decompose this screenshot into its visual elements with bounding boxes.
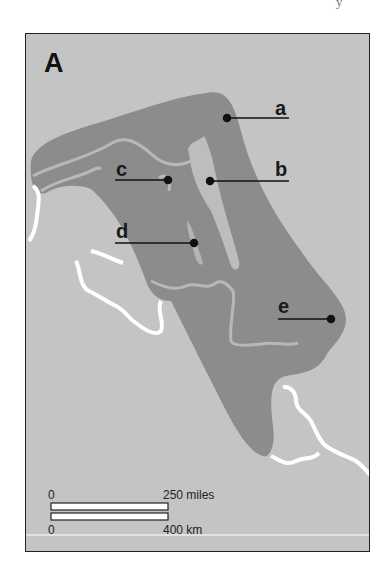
scale-miles-end: 250 miles [163,489,214,501]
scale-km-start: 0 [48,524,55,536]
map-graphic [26,34,370,552]
coastline-east [271,387,370,476]
coastline-west [29,186,39,241]
label-c: c [116,159,127,179]
scale-miles-start: 0 [48,489,55,501]
panel-letter: A [44,50,64,77]
scale-bar-km [51,513,168,520]
label-a: a [275,98,286,118]
scale-km-end: 400 km [163,524,202,536]
scale-bar-miles [51,503,168,510]
label-d: d [116,221,128,241]
page-corner-glyph: y [336,0,343,10]
label-e: e [278,296,289,316]
label-b: b [275,159,287,179]
map-frame: A a b c d e 0 250 miles 0 400 km [25,33,370,552]
